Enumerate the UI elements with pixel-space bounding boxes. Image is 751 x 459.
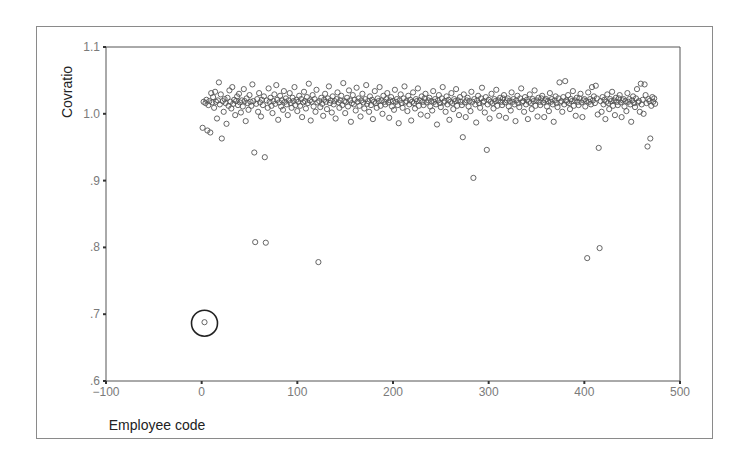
data-point: [447, 117, 452, 122]
data-point: [377, 85, 382, 90]
data-point: [573, 113, 578, 118]
x-axis-ticks: −1000100200300400500: [92, 381, 690, 399]
data-point: [370, 117, 375, 122]
data-point: [597, 246, 602, 251]
y-axis-title: Covratio: [59, 66, 75, 118]
data-point: [329, 110, 334, 115]
data-point: [321, 113, 326, 118]
data-point: [479, 85, 484, 90]
x-tick-label: 300: [479, 385, 499, 399]
x-tick-label: 400: [574, 385, 594, 399]
data-point: [250, 82, 255, 87]
data-point: [436, 93, 441, 98]
data-point: [440, 85, 445, 90]
data-point: [489, 91, 494, 96]
data-point: [227, 88, 232, 93]
data-point: [484, 147, 489, 152]
data-point: [218, 92, 223, 97]
data-point: [219, 136, 224, 141]
data-point: [535, 114, 540, 119]
data-point: [233, 113, 238, 118]
y-tick-label: 1.1: [83, 40, 100, 54]
data-point: [313, 109, 318, 114]
data-point: [353, 108, 358, 113]
data-point: [292, 85, 297, 90]
data-point: [634, 87, 639, 92]
x-tick-label: 0: [198, 385, 205, 399]
data-point: [443, 109, 448, 114]
data-point: [303, 106, 308, 111]
data-point: [387, 115, 392, 120]
data-point: [418, 112, 423, 117]
data-point: [274, 83, 279, 88]
data-point: [295, 109, 300, 114]
data-point: [532, 88, 537, 93]
data-point: [497, 113, 502, 118]
data-point: [362, 106, 367, 111]
data-point: [306, 81, 311, 86]
data-point: [346, 88, 351, 93]
data-point: [468, 109, 473, 114]
scatter-plot: .6.7.8.91.01.1 −1000100200300400500 Covr…: [0, 0, 751, 459]
data-points: [200, 79, 658, 325]
data-point: [624, 109, 629, 114]
data-point: [324, 107, 329, 112]
data-point: [276, 117, 281, 122]
data-point: [326, 84, 331, 89]
x-tick-label: −100: [92, 385, 119, 399]
data-point: [603, 117, 608, 122]
data-point: [619, 115, 624, 120]
data-point: [214, 116, 219, 121]
data-point: [252, 150, 257, 155]
data-point: [610, 89, 615, 94]
data-point: [449, 91, 454, 96]
data-point: [546, 109, 551, 114]
data-point: [583, 104, 588, 109]
data-point: [513, 119, 518, 124]
data-point: [200, 125, 205, 130]
x-tick-label: 100: [287, 385, 307, 399]
data-point: [519, 86, 524, 91]
data-point: [266, 86, 271, 91]
plot-axes: [106, 47, 680, 381]
data-point: [460, 135, 465, 140]
data-point: [247, 93, 252, 98]
data-point: [341, 81, 346, 86]
data-point: [645, 144, 650, 149]
data-point: [415, 86, 420, 91]
data-point: [547, 91, 552, 96]
data-point: [392, 87, 397, 92]
data-point: [551, 119, 556, 124]
data-point: [612, 113, 617, 118]
data-point: [316, 260, 321, 265]
data-point: [287, 91, 292, 96]
data-point: [522, 109, 527, 114]
data-point: [343, 111, 348, 116]
data-point: [605, 92, 610, 97]
y-tick-label: .9: [90, 174, 100, 188]
data-point: [586, 90, 591, 95]
data-point: [230, 85, 235, 90]
data-point: [557, 80, 562, 85]
data-point: [380, 111, 385, 116]
x-tick-label: 200: [383, 385, 403, 399]
data-point: [348, 119, 353, 124]
data-point: [257, 91, 262, 96]
data-point: [253, 240, 258, 245]
data-point: [285, 113, 290, 118]
data-point: [629, 119, 634, 124]
data-point: [411, 90, 416, 95]
data-point: [241, 87, 246, 92]
data-point: [570, 89, 575, 94]
data-point: [256, 109, 261, 114]
data-point: [456, 113, 461, 118]
data-point: [642, 82, 647, 87]
data-point: [263, 240, 268, 245]
data-point: [301, 89, 306, 94]
data-point: [240, 104, 245, 109]
data-point: [625, 91, 630, 96]
data-point: [367, 109, 372, 114]
data-point: [308, 118, 313, 123]
data-point: [281, 89, 286, 94]
data-point: [454, 87, 459, 92]
